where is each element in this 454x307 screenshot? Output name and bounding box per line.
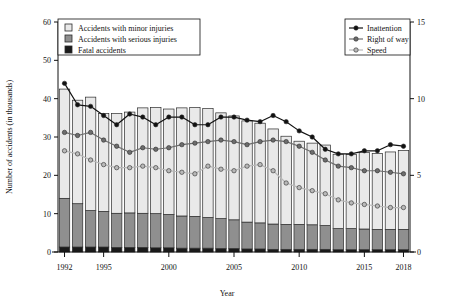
data-point-inattention-1993 [75, 103, 79, 107]
bar-segment-fatal-accidents [59, 247, 69, 252]
data-point-right-of-way-1997 [128, 150, 132, 154]
data-point-inattention-2013 [336, 152, 340, 156]
data-point-right-of-way-2013 [336, 164, 340, 168]
data-point-right-of-way-2016 [375, 169, 379, 173]
bar-group-2010 [294, 141, 304, 252]
data-point-inattention-2011 [310, 135, 314, 139]
bar-segment-accidents-with-minor-injuries [85, 97, 95, 210]
data-point-inattention-2000 [167, 115, 171, 119]
data-point-speed-2002 [193, 172, 197, 176]
bar-segment-accidents-with-serious-injuries [203, 218, 213, 249]
bar-group-2011 [307, 143, 317, 252]
legend-left: Accidents with minor injuriesAccidents w… [58, 19, 200, 55]
bar-group-2001 [177, 108, 187, 252]
legend-left-label-2: Fatal accidents [78, 46, 126, 55]
bar-group-2006 [242, 121, 252, 252]
y-tick-label-left-40: 40 [43, 95, 51, 104]
bar-segment-accidents-with-serious-injuries [85, 211, 95, 247]
bar-segment-accidents-with-serious-injuries [151, 214, 161, 248]
data-point-right-of-way-1994 [88, 130, 92, 134]
data-point-speed-1996 [114, 165, 118, 169]
accidents-stacked-bar-line-chart: 0102030405060051015199219952000200520102… [0, 0, 454, 307]
bar-segment-accidents-with-serious-injuries [242, 222, 252, 249]
bar-group-2017 [385, 152, 395, 252]
bar-segment-accidents-with-serious-injuries [320, 226, 330, 250]
legend-left-swatch-2 [65, 46, 72, 53]
bar-segment-accidents-with-serious-injuries [72, 204, 82, 247]
data-point-speed-2014 [349, 201, 353, 205]
data-point-inattention-1994 [88, 104, 92, 108]
data-point-inattention-2012 [323, 147, 327, 151]
bar-segment-accidents-with-serious-injuries [268, 224, 278, 249]
bar-segment-fatal-accidents [151, 248, 161, 252]
bar-segment-accidents-with-minor-injuries [359, 152, 369, 229]
bar-segment-accidents-with-serious-injuries [255, 223, 265, 249]
x-axis-title: Year [220, 289, 235, 298]
data-point-speed-1994 [88, 158, 92, 162]
bar-segment-accidents-with-serious-injuries [216, 219, 226, 249]
data-point-right-of-way-2014 [349, 165, 353, 169]
data-point-speed-2008 [271, 169, 275, 173]
bar-segment-accidents-with-minor-injuries [242, 121, 252, 222]
y-tick-label-left-50: 50 [43, 56, 51, 65]
bar-group-1996 [111, 114, 121, 252]
y-tick-label-left-0: 0 [47, 248, 51, 257]
bar-segment-accidents-with-serious-injuries [398, 229, 408, 249]
legend-right-label-2: Speed [367, 46, 387, 55]
legend-left-label-1: Accidents with serious injuries [78, 35, 177, 44]
bar-group-2002 [190, 107, 200, 252]
bar-segment-fatal-accidents [203, 248, 213, 252]
y-tick-label-right-5: 5 [417, 171, 421, 180]
data-point-speed-1992 [62, 149, 66, 153]
bar-group-2008 [268, 129, 278, 252]
data-point-speed-2006 [245, 164, 249, 168]
data-point-right-of-way-2008 [271, 138, 275, 142]
bar-group-1992 [59, 89, 69, 252]
bar-segment-accidents-with-serious-injuries [190, 216, 200, 248]
bar-segment-accidents-with-serious-injuries [124, 213, 134, 248]
data-point-right-of-way-2001 [180, 142, 184, 146]
data-point-speed-2013 [336, 198, 340, 202]
data-point-inattention-2007 [258, 119, 262, 123]
data-point-inattention-1997 [128, 112, 132, 116]
y-tick-label-left-60: 60 [43, 18, 51, 27]
data-point-right-of-way-1998 [141, 146, 145, 150]
bar-group-2004 [216, 113, 226, 252]
data-point-inattention-2008 [271, 113, 275, 117]
data-point-right-of-way-2011 [310, 150, 314, 154]
bar-segment-accidents-with-serious-injuries [138, 213, 148, 247]
data-point-speed-1999 [154, 165, 158, 169]
data-point-speed-1993 [75, 152, 79, 156]
data-point-speed-1995 [101, 162, 105, 166]
data-point-inattention-1996 [114, 123, 118, 127]
y-tick-label-left-10: 10 [43, 210, 51, 219]
data-point-inattention-2018 [401, 144, 405, 148]
data-point-speed-1997 [128, 165, 132, 169]
x-tick-label-2000: 2000 [161, 263, 177, 272]
legend-right-marker-1 [354, 37, 358, 41]
bar-segment-fatal-accidents [177, 248, 187, 252]
bar-segment-accidents-with-serious-injuries [229, 220, 239, 249]
bar-segment-accidents-with-serious-injuries [307, 225, 317, 250]
data-point-right-of-way-1992 [62, 130, 66, 134]
data-point-right-of-way-2000 [167, 146, 171, 150]
bar-segment-fatal-accidents [164, 248, 174, 252]
bar-segment-accidents-with-minor-injuries [268, 129, 278, 224]
bar-group-1995 [98, 114, 108, 252]
chart-container: 0102030405060051015199219952000200520102… [0, 0, 454, 307]
data-point-inattention-1999 [154, 123, 158, 127]
data-point-speed-2018 [401, 205, 405, 209]
bar-segment-accidents-with-serious-injuries [177, 216, 187, 248]
data-point-inattention-2004 [219, 115, 223, 119]
bar-group-1993 [72, 100, 82, 252]
data-point-right-of-way-2015 [362, 169, 366, 173]
bar-segment-fatal-accidents [85, 247, 95, 252]
legend-left-swatch-1 [65, 35, 72, 42]
bar-segment-accidents-with-serious-injuries [111, 213, 121, 247]
bar-segment-accidents-with-minor-injuries [177, 108, 187, 216]
bar-group-1998 [138, 108, 148, 252]
data-point-speed-2004 [219, 167, 223, 171]
data-point-inattention-2006 [245, 118, 249, 122]
legend-left-label-0: Accidents with minor injuries [78, 24, 173, 33]
bar-segment-accidents-with-serious-injuries [164, 214, 174, 247]
